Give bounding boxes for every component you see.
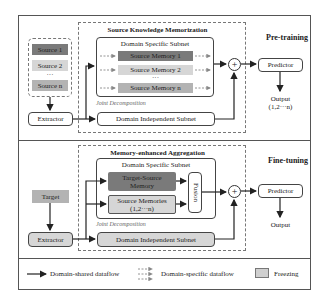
sm-line1: Source Memories	[117, 197, 167, 205]
source-n: Source n	[32, 80, 68, 91]
source-1: Source 1	[32, 44, 68, 55]
dss-title-finetuning: Domain Specific Subnet	[96, 161, 216, 169]
output-finetuning: Output	[258, 220, 303, 230]
predictor-finetuning: Predictor	[258, 184, 303, 198]
extractor-finetuning: Extractor	[28, 232, 73, 247]
output-label: Output	[271, 95, 290, 103]
source-memory-1: Source Memory 1	[118, 51, 193, 61]
module-title-pretraining: Source Knowledge Memorization	[95, 25, 220, 34]
panel-divider-1	[18, 140, 311, 141]
source-memory-n: Source Memory n	[118, 83, 193, 93]
module-title-finetuning: Memory-enhanced Aggregation	[95, 148, 220, 157]
target-block: Target	[32, 190, 69, 203]
output-pretraining: Output (1,2···n)	[258, 94, 303, 112]
tsm-line2: Memory	[130, 182, 154, 190]
memory-ellipsis: ···	[118, 75, 193, 81]
source-2: Source 2	[32, 60, 68, 71]
fusion-block: Fusion	[188, 172, 202, 213]
joint-decomposition-finetuning: Joint Decomposition	[96, 221, 146, 228]
target-source-memory: Target-Source Memory	[108, 172, 176, 191]
sm-line2: (1,2···n)	[130, 205, 154, 213]
legend-freezing-swatch	[255, 268, 269, 278]
panel-divider-2	[18, 258, 311, 259]
output-range: (1,2···n)	[269, 103, 293, 111]
dss-title-pretraining: Domain Specific Subnet	[96, 40, 214, 48]
predictor-pretraining: Predictor	[258, 58, 303, 72]
domain-independent-subnet-finetuning: Domain Independent Subnet	[97, 232, 215, 247]
source-memories-frozen: Source Memories (1,2···n)	[108, 195, 176, 214]
legend-freezing-label: Freezing	[274, 270, 299, 278]
pretraining-label: Pre-training	[266, 33, 316, 42]
finetuning-label: Fine-tuning	[268, 156, 318, 165]
fusion-label: Fusion	[192, 183, 199, 202]
extractor-pretraining: Extractor	[28, 112, 73, 126]
tsm-line1: Target-Source	[122, 174, 161, 182]
sum-node-pretraining: +	[228, 58, 241, 71]
domain-independent-subnet-pretraining: Domain Independent Subnet	[97, 112, 215, 126]
source-ellipsis: ···	[32, 72, 68, 78]
legend-shared-label: Domain-shared dataflow	[50, 270, 119, 278]
legend-specific-label: Domain-specific dataflow	[161, 270, 234, 278]
joint-decomposition-pretraining: Joint Decomposition	[96, 100, 146, 107]
sum-node-finetuning: +	[228, 185, 241, 198]
